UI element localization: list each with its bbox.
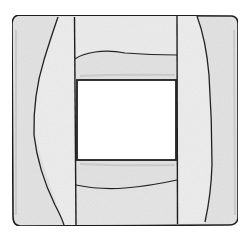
frame-sketch <box>0 0 252 232</box>
drawing-canvas: Square frame sketch <box>0 0 252 232</box>
right-stile-edge <box>177 16 178 224</box>
window-opening <box>77 80 176 160</box>
top-rail-upper <box>75 16 177 57</box>
